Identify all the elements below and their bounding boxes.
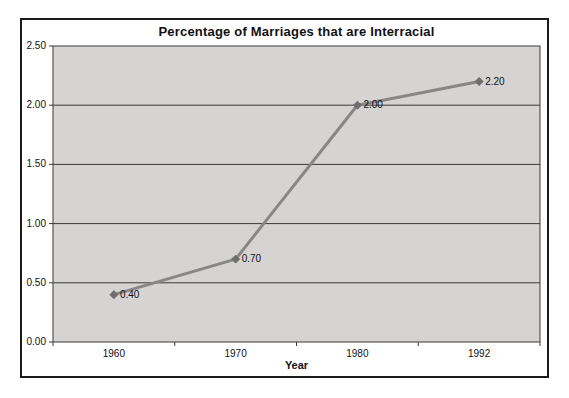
x-axis-tick-label: 1980	[317, 348, 397, 360]
y-axis-tick-label: 1.00	[22, 218, 46, 230]
y-axis-tick-label: 1.50	[22, 158, 46, 170]
chart-frame: Percentage of Marriages that are Interra…	[20, 18, 549, 378]
data-point-label: 0.70	[242, 252, 261, 265]
y-axis-tick-label: 2.00	[22, 99, 46, 111]
data-point-label: 2.00	[363, 98, 382, 111]
y-axis-tick-label: 0.00	[22, 336, 46, 348]
x-axis-tick-label: 1992	[439, 348, 519, 360]
page-background: Percentage of Marriages that are Interra…	[0, 0, 569, 398]
x-axis-tick-label: 1960	[74, 348, 154, 360]
x-axis-tick-label: 1970	[196, 348, 276, 360]
y-axis-tick-label: 2.50	[22, 40, 46, 52]
data-point-label: 0.40	[120, 288, 139, 301]
line-chart-plot	[22, 20, 547, 376]
y-axis-tick-label: 0.50	[22, 277, 46, 289]
x-axis-title: Year	[53, 359, 540, 371]
data-point-label: 2.20	[485, 75, 504, 88]
